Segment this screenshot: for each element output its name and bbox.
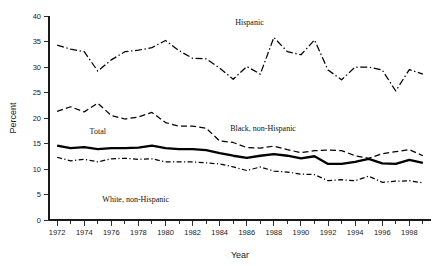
y-axis-title: Percent [8,102,18,134]
y-tick-label: 15 [33,139,41,148]
y-tick-label: 25 [33,88,41,97]
series-line-hispanic [57,37,423,91]
y-tick-label: 0 [37,216,41,225]
y-tick-label: 35 [33,37,41,46]
series-line-white-non-hispanic [57,157,423,183]
y-axis-tick-labels: 0510152025303540 [33,12,41,225]
x-tick-label: 1984 [211,228,228,237]
x-tick-label: 1990 [293,228,310,237]
x-tick-label: 1988 [266,228,283,237]
chart-figure: 0510152025303540 19721974197619781980198… [0,0,445,266]
line-chart: 0510152025303540 19721974197619781980198… [0,0,445,266]
x-tick-label: 1978 [130,228,147,237]
x-tick-label: 1986 [238,228,255,237]
y-tick-label: 40 [33,12,41,21]
x-tick-label: 1994 [347,228,364,237]
x-tick-label: 1998 [401,228,418,237]
x-tick-label: 1976 [103,228,120,237]
y-tick-label: 20 [33,114,41,123]
x-tick-label: 1982 [184,228,201,237]
series-label-white-non-hispanic: White, non-Hispanic [102,195,169,204]
y-axis-ticks [44,16,49,220]
x-axis-tick-labels: 1972197419761978198019821984198619881990… [49,228,418,237]
x-axis-ticks [57,220,423,226]
y-tick-label: 10 [33,165,41,174]
x-tick-label: 1996 [374,228,391,237]
y-tick-label: 30 [33,63,41,72]
x-tick-label: 1974 [76,228,93,237]
y-tick-label: 5 [37,190,41,199]
x-tick-label: 1980 [157,228,174,237]
x-tick-label: 1972 [49,228,66,237]
series-label-black-non-hispanic: Black, non-Hispanic [230,124,296,133]
series-label-total: Total [90,127,107,136]
chart-annotations: HispanicBlack, non-HispanicTotalWhite, n… [90,18,297,203]
x-tick-label: 1992 [320,228,337,237]
series-label-hispanic: Hispanic [235,18,264,27]
series-line-total [57,146,423,164]
chart-series-group [57,37,423,182]
x-axis-title: Year [231,250,249,260]
